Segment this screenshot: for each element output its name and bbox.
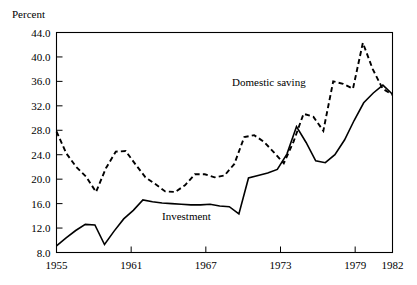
line-chart-canvas: 8.012.016.020.024.028.032.036.040.044.0 … [0, 0, 417, 285]
x-tick-label: 1955 [46, 259, 69, 271]
chart-figure: Percent 8.012.016.020.024.028.032.036.04… [0, 0, 417, 285]
x-tick-label: 1982 [382, 259, 404, 271]
x-axis-tick-labels: 195519611967197319791982 [46, 259, 404, 271]
y-tick-label: 16.0 [31, 198, 51, 210]
y-tick-label: 8.0 [37, 247, 51, 259]
y-tick-label: 32.0 [31, 100, 51, 112]
y-tick-label: 40.0 [31, 51, 51, 63]
y-tick-label: 24.0 [31, 149, 51, 161]
x-tick-label: 1967 [195, 259, 218, 271]
x-tick-label: 1973 [270, 259, 293, 271]
series-annotation-domestic-saving: Domestic saving [232, 76, 306, 88]
y-tick-label: 20.0 [31, 173, 51, 185]
y-tick-label: 44.0 [31, 27, 51, 39]
y-tick-label: 36.0 [31, 75, 51, 87]
x-tick-label: 1979 [344, 259, 367, 271]
x-axis-tick-marks [57, 247, 393, 253]
series-line-domestic-saving [57, 43, 393, 192]
y-tick-label: 28.0 [31, 124, 51, 136]
series-annotation-investment: Investment [162, 210, 211, 222]
x-tick-label: 1961 [120, 259, 142, 271]
y-tick-label: 12.0 [31, 222, 51, 234]
y-axis-tick-labels: 8.012.016.020.024.028.032.036.040.044.0 [31, 27, 51, 259]
